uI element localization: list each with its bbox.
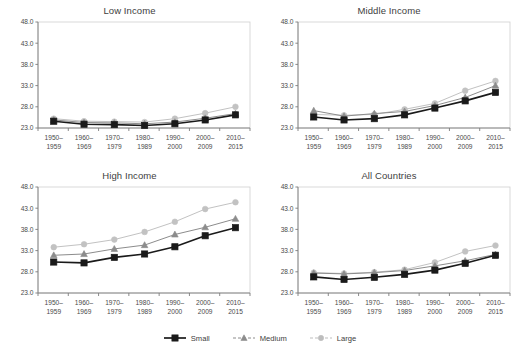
x-tick-label-line2: 1989: [137, 308, 152, 315]
plot-frame: [38, 22, 250, 128]
x-tick-label-line1: 1990–: [425, 134, 444, 141]
y-tick-label: 48.0: [21, 183, 34, 190]
y-tick-label: 38.0: [21, 61, 34, 68]
x-tick-label-line2: 1989: [137, 143, 152, 150]
data-point-marker: [172, 335, 178, 341]
triangle-icon: [232, 333, 256, 343]
y-tick-label: 28.0: [280, 103, 293, 110]
x-tick-label-line1: 1960–: [334, 299, 353, 306]
x-tick-label-line2: 2000: [427, 143, 442, 150]
x-tick-label-line1: 2010–: [226, 134, 245, 141]
x-tick-label-line1: 1990–: [425, 299, 444, 306]
x-tick-label-line1: 1990–: [166, 299, 185, 306]
y-tick-label: 48.0: [280, 18, 293, 25]
data-point-marker: [492, 82, 499, 88]
data-point-marker: [401, 271, 407, 277]
data-point-marker: [233, 199, 239, 205]
data-point-marker: [111, 122, 117, 128]
data-point-marker: [462, 98, 468, 104]
data-point-marker: [51, 244, 57, 250]
data-point-marker: [202, 206, 208, 212]
panel-high-income: High Income 23.028.033.038.043.048.01950…: [0, 165, 259, 330]
x-tick-label-line2: 1959: [46, 143, 61, 150]
x-tick-label-line1: 1970–: [105, 134, 124, 141]
data-point-marker: [241, 335, 247, 341]
x-tick-label-line1: 1960–: [75, 134, 94, 141]
x-tick-label-line1: 1980–: [135, 299, 154, 306]
data-point-marker: [310, 114, 316, 120]
legend-label: Small: [191, 334, 210, 343]
y-tick-label: 43.0: [280, 205, 293, 212]
x-tick-label-line1: 1980–: [135, 134, 154, 141]
y-tick-label: 28.0: [21, 268, 34, 275]
x-tick-label-line1: 1990–: [166, 134, 185, 141]
data-point-marker: [81, 121, 87, 127]
data-point-marker: [81, 241, 87, 247]
data-point-marker: [172, 244, 178, 250]
y-tick-label: 23.0: [21, 289, 34, 296]
y-tick-label: 38.0: [280, 61, 293, 68]
y-tick-label: 23.0: [280, 289, 293, 296]
data-point-marker: [462, 260, 468, 266]
x-tick-label-line1: 1970–: [365, 134, 384, 141]
data-point-marker: [111, 254, 117, 260]
data-point-marker: [202, 233, 208, 239]
y-tick-label: 33.0: [21, 82, 34, 89]
x-tick-label-line1: 2000–: [456, 134, 475, 141]
y-tick-label: 43.0: [21, 205, 34, 212]
y-tick-label: 43.0: [21, 40, 34, 47]
y-tick-label: 23.0: [280, 124, 293, 131]
data-point-marker: [142, 122, 148, 128]
data-point-marker: [431, 267, 437, 273]
data-point-marker: [232, 215, 239, 221]
data-point-marker: [51, 259, 57, 265]
y-tick-label: 48.0: [21, 18, 34, 25]
x-tick-label-line2: 1979: [107, 308, 122, 315]
data-point-marker: [401, 112, 407, 118]
chart-low-income: 23.028.033.038.043.048.01950–19591960–19…: [0, 0, 259, 165]
plot-frame: [38, 187, 250, 293]
data-point-marker: [81, 260, 87, 266]
x-tick-label-line2: 2015: [228, 308, 243, 315]
data-point-marker: [492, 243, 498, 249]
x-tick-label-line2: 2000: [168, 308, 183, 315]
y-tick-label: 28.0: [21, 103, 34, 110]
x-tick-label-line1: 1970–: [365, 299, 384, 306]
x-tick-label-line2: 1959: [46, 308, 61, 315]
chart-high-income: 23.028.033.038.043.048.01950–19591960–19…: [0, 165, 259, 330]
x-tick-label-line1: 2000–: [456, 299, 475, 306]
y-tick-label: 23.0: [21, 124, 34, 131]
legend-item-small: Small: [163, 333, 210, 343]
data-point-marker: [371, 274, 377, 280]
circle-icon: [309, 333, 333, 343]
x-tick-label-line1: 1980–: [395, 299, 414, 306]
data-point-marker: [142, 251, 148, 257]
x-tick-label-line2: 2015: [228, 143, 243, 150]
x-tick-label-line2: 1969: [77, 143, 92, 150]
x-tick-label-line2: 1979: [107, 143, 122, 150]
x-tick-label-line1: 2010–: [486, 134, 505, 141]
x-tick-label-line1: 1950–: [304, 134, 323, 141]
data-point-marker: [340, 276, 346, 282]
x-tick-label-line1: 1950–: [45, 134, 64, 141]
figure-multi-panel-line-charts: Low Income 23.028.033.038.043.048.01950–…: [0, 0, 519, 358]
x-tick-label-line2: 1989: [397, 308, 412, 315]
x-tick-label-line1: 2010–: [486, 299, 505, 306]
series-small: [310, 89, 498, 123]
x-tick-label-line2: 1979: [366, 308, 381, 315]
filled-square-icon: [163, 333, 187, 343]
x-tick-label-line2: 2000: [168, 143, 183, 150]
y-tick-label: 48.0: [280, 183, 293, 190]
data-point-marker: [310, 274, 316, 280]
data-point-marker: [172, 219, 178, 225]
x-tick-label-line1: 1960–: [334, 134, 353, 141]
panel-middle-income: Middle Income 23.028.033.038.043.048.019…: [260, 0, 519, 165]
chart-middle-income: 23.028.033.038.043.048.01950–19591960–19…: [260, 0, 519, 165]
x-tick-label-line1: 1950–: [304, 299, 323, 306]
data-point-marker: [202, 117, 208, 123]
legend-label: Large: [337, 334, 356, 343]
panel-low-income: Low Income 23.028.033.038.043.048.01950–…: [0, 0, 259, 165]
y-tick-label: 38.0: [280, 226, 293, 233]
x-tick-label-line2: 2015: [488, 143, 503, 150]
y-tick-label: 33.0: [280, 247, 293, 254]
